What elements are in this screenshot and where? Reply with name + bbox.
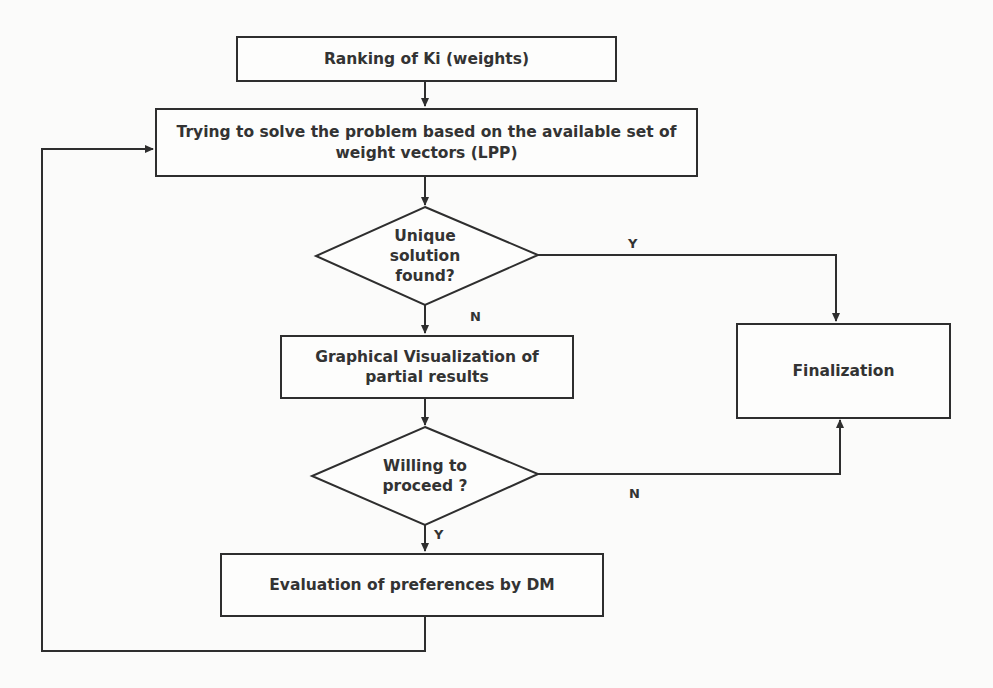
decision-willing: Willing to proceed ? xyxy=(350,440,500,512)
process-visualization-line2: partial results xyxy=(365,367,488,387)
flowchart-canvas: Ranking of Ki (weights) Trying to solve … xyxy=(0,0,993,688)
decision-unique-line1: Unique xyxy=(394,226,456,246)
edge-label-willing-yes: Y xyxy=(434,527,443,542)
process-finalization-label: Finalization xyxy=(793,361,895,381)
process-visualization-line1: Graphical Visualization of xyxy=(315,347,539,367)
process-evaluation-label: Evaluation of preferences by DM xyxy=(269,575,554,595)
edge-unique-yes-finalization xyxy=(538,255,836,321)
process-visualization: Graphical Visualization of partial resul… xyxy=(280,335,574,399)
edge-label-unique-yes: Y xyxy=(628,236,637,251)
process-evaluation: Evaluation of preferences by DM xyxy=(220,553,604,617)
process-solve: Trying to solve the problem based on the… xyxy=(155,108,698,177)
process-ranking-label: Ranking of Ki (weights) xyxy=(324,49,529,69)
decision-willing-line1: Willing to xyxy=(383,456,467,476)
process-finalization: Finalization xyxy=(736,323,951,419)
process-solve-line2: weight vectors (LPP) xyxy=(336,143,518,163)
edge-label-unique-no: N xyxy=(470,309,481,324)
process-solve-line1: Trying to solve the problem based on the… xyxy=(177,122,677,142)
decision-unique: Unique solution found? xyxy=(355,212,495,300)
decision-willing-line2: proceed ? xyxy=(382,476,467,496)
decision-unique-line3: found? xyxy=(395,266,455,286)
edge-willing-no-finalization xyxy=(538,420,840,474)
decision-unique-line2: solution xyxy=(390,246,461,266)
edge-label-willing-no: N xyxy=(629,486,640,501)
process-ranking: Ranking of Ki (weights) xyxy=(236,36,617,82)
